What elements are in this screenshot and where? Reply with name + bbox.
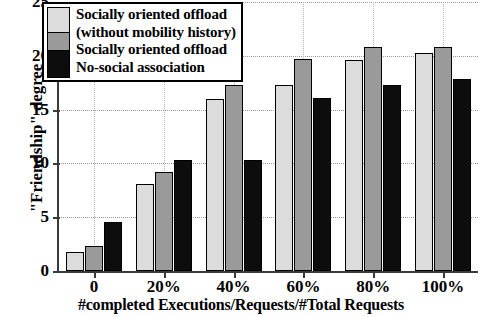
bar: [345, 60, 363, 271]
x-tick-label-20%: 20%: [147, 277, 181, 297]
bar: [104, 222, 122, 271]
legend-label-line-2: (without mobility history): [76, 24, 236, 42]
legend-label-line-4: No-social association: [76, 59, 236, 77]
y-tick-mark-5: [53, 217, 60, 219]
bar-chart-figure: "Friendship" degree 0510152025 020%40%60…: [0, 0, 482, 317]
bar: [155, 172, 173, 271]
bar: [206, 99, 224, 271]
legend-label-line-3: Socially oriented offload: [76, 41, 236, 59]
bar: [364, 47, 382, 271]
bar: [415, 53, 433, 271]
x-tick-label-100%: 100%: [422, 277, 465, 297]
legend-swatch-socially-oriented-offload-no-mobility: [48, 8, 69, 33]
x-tick-label-60%: 60%: [286, 277, 320, 297]
y-tick-mark-15: [53, 110, 60, 112]
y-tick-label-15: 15: [32, 99, 49, 119]
bar: [244, 160, 262, 271]
legend-labels: Socially oriented offload (without mobil…: [76, 6, 236, 76]
bar: [434, 47, 452, 271]
x-tick-label-0: 0: [90, 277, 99, 297]
x-tick-label-40%: 40%: [217, 277, 251, 297]
legend-swatch-socially-oriented-offload: [48, 33, 69, 51]
y-tick-label-0: 0: [41, 261, 50, 281]
bar: [275, 85, 293, 271]
y-tick-label-10: 10: [32, 153, 49, 173]
y-tick-mark-0: [53, 271, 60, 273]
bar: [294, 59, 312, 271]
bar: [66, 252, 84, 271]
bar: [85, 246, 103, 271]
bar: [225, 85, 243, 271]
y-tick-label-5: 5: [41, 207, 50, 227]
bar: [136, 184, 154, 271]
legend-swatch-no-social-association: [48, 51, 69, 77]
bar: [383, 85, 401, 271]
x-tick-label-80%: 80%: [356, 277, 390, 297]
legend-label-line-1: Socially oriented offload: [76, 6, 236, 24]
legend-swatch: [47, 7, 70, 78]
bar: [453, 79, 471, 271]
bar: [174, 160, 192, 271]
x-axis-title: #completed Executions/Requests/#Total Re…: [0, 296, 482, 314]
bar: [313, 98, 331, 271]
legend: Socially oriented offload (without mobil…: [42, 2, 243, 82]
y-tick-mark-10: [53, 163, 60, 165]
